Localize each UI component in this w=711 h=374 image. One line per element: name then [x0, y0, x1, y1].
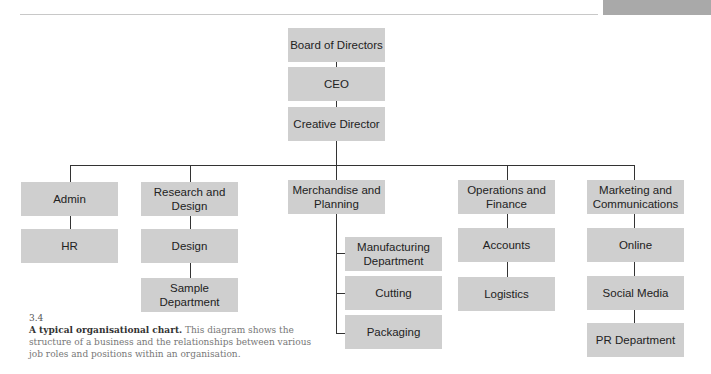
node-online: Online — [587, 228, 684, 262]
node-manufacturing-department: Manufacturing Department — [345, 237, 442, 271]
connector-bracket — [336, 214, 337, 334]
figure-caption: 3.4 A typical organisational chart. This… — [29, 312, 319, 360]
figure-number: 3.4 — [29, 312, 319, 324]
connector — [336, 141, 337, 180]
page-tab — [603, 0, 711, 15]
node-accounts: Accounts — [458, 228, 555, 262]
connector — [336, 333, 345, 334]
node-logistics: Logistics — [458, 277, 555, 311]
node-sample-department: Sample Department — [141, 278, 238, 312]
connector — [190, 165, 191, 182]
node-marketing-and-communications: Marketing and Communications — [587, 180, 684, 214]
node-research-and-design: Research and Design — [141, 182, 238, 216]
connector — [336, 253, 345, 254]
node-operations-and-finance: Operations and Finance — [458, 180, 555, 214]
node-design: Design — [141, 229, 238, 263]
connector — [190, 216, 191, 229]
connector — [190, 263, 191, 278]
connector — [336, 293, 345, 294]
connector — [507, 214, 508, 228]
node-hr: HR — [21, 229, 118, 263]
connector-bus — [70, 165, 635, 166]
node-admin: Admin — [21, 182, 118, 216]
connector — [70, 216, 71, 229]
node-creative-director: Creative Director — [288, 107, 385, 141]
node-ceo: CEO — [288, 67, 385, 101]
node-social-media: Social Media — [587, 276, 684, 310]
node-board-of-directors: Board of Directors — [288, 28, 385, 62]
connector — [507, 165, 508, 180]
header-rule — [20, 14, 598, 15]
node-cutting: Cutting — [345, 276, 442, 310]
caption-title: A typical organisational chart. — [29, 325, 182, 335]
connector — [634, 214, 635, 228]
connector — [634, 165, 635, 180]
connector — [70, 165, 71, 182]
connector — [507, 262, 508, 277]
connector — [634, 310, 635, 323]
connector — [634, 262, 635, 276]
node-packaging: Packaging — [345, 315, 442, 349]
node-pr-department: PR Department — [587, 323, 684, 357]
node-merchandise-and-planning: Merchandise and Planning — [288, 180, 385, 214]
